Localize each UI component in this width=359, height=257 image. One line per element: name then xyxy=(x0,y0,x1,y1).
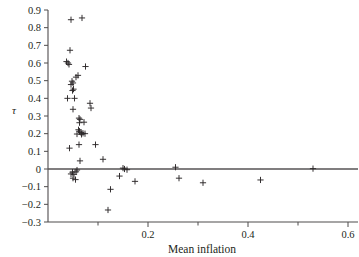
data-point xyxy=(76,120,82,126)
data-point xyxy=(77,116,83,122)
data-point xyxy=(107,186,113,192)
y-tick-label: 0.7 xyxy=(28,40,41,51)
data-point-group xyxy=(63,15,316,213)
data-point xyxy=(76,142,82,148)
axis-lines xyxy=(48,10,358,222)
y-tick-label: 0.4 xyxy=(28,93,42,104)
y-tick-label: 0.1 xyxy=(28,146,41,157)
data-point xyxy=(69,87,75,93)
y-tick-label: 0.8 xyxy=(28,22,41,33)
data-point xyxy=(76,115,82,121)
y-tick-label: 0.9 xyxy=(28,5,41,16)
y-tick-label: 0 xyxy=(36,164,41,175)
x-tick-label: 0.2 xyxy=(141,229,154,240)
data-point xyxy=(71,95,77,101)
data-point xyxy=(79,15,85,21)
data-point xyxy=(64,95,70,101)
data-point xyxy=(67,47,73,53)
plot-canvas: −0.3−0.2−0.100.10.20.30.40.50.60.70.80.9… xyxy=(0,0,359,257)
y-tick-label: 0.5 xyxy=(28,75,41,86)
data-point xyxy=(257,177,263,183)
data-point xyxy=(116,173,122,179)
axis-tick-marks xyxy=(44,10,348,227)
y-axis-title: τ xyxy=(12,104,17,116)
x-tick-label: 0.4 xyxy=(241,229,255,240)
x-tick-label: 0.6 xyxy=(341,229,354,240)
scatter-plot-figure: −0.3−0.2−0.100.10.20.30.40.50.60.70.80.9… xyxy=(0,0,359,257)
data-point xyxy=(68,17,74,23)
y-axis-tick-labels: −0.3−0.2−0.100.10.20.30.40.50.60.70.80.9 xyxy=(22,5,42,228)
data-point xyxy=(82,63,88,69)
data-point xyxy=(200,180,206,186)
data-point xyxy=(70,106,76,112)
data-point xyxy=(77,158,83,164)
y-tick-label: 0.6 xyxy=(28,58,41,69)
data-point xyxy=(65,60,71,66)
data-point xyxy=(310,166,316,172)
y-tick-label: −0.1 xyxy=(22,181,41,192)
x-axis-tick-labels: 0.20.40.6 xyxy=(141,229,354,240)
data-point xyxy=(92,142,98,148)
data-point xyxy=(66,145,72,151)
data-point xyxy=(87,100,93,106)
data-point xyxy=(100,156,106,162)
y-tick-label: 0.3 xyxy=(28,111,41,122)
y-tick-label: −0.2 xyxy=(22,199,41,210)
data-point xyxy=(88,105,94,111)
y-tick-label: 0.2 xyxy=(28,128,41,139)
x-axis-title: Mean inflation xyxy=(168,243,236,255)
data-point xyxy=(176,175,182,181)
y-tick-label: −0.3 xyxy=(22,217,41,228)
data-point xyxy=(120,165,126,171)
data-point xyxy=(105,207,111,213)
data-point xyxy=(81,119,87,125)
data-point xyxy=(132,178,138,184)
